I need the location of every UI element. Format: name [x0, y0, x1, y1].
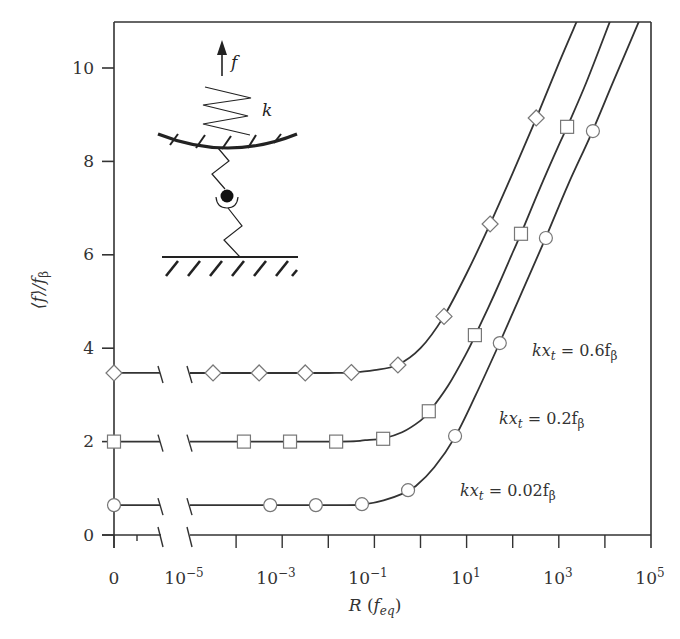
diamond-marker — [528, 110, 544, 126]
molecule-spring-upper-icon — [212, 148, 229, 189]
hatch-marks-ground — [166, 261, 297, 276]
circle-marker — [108, 499, 121, 512]
diamond-marker — [482, 216, 498, 232]
square-marker — [284, 435, 297, 448]
spring-constant-label: k — [262, 100, 272, 120]
y-tick-label: 8 — [83, 151, 94, 171]
square-marker — [561, 120, 574, 133]
y-tick-label: 6 — [83, 244, 94, 264]
y-tick-label: 2 — [83, 431, 94, 451]
square-marker — [468, 329, 481, 342]
chart: 0 10−5 10−3 10−1 101 103 105 0 2 4 6 8 1… — [0, 0, 680, 639]
bead-icon — [221, 190, 234, 203]
circle-marker — [586, 125, 599, 138]
square-marker — [237, 435, 250, 448]
series-label-0.02: kxt = 0.02fβ — [460, 481, 556, 503]
circle-marker — [539, 231, 552, 244]
x-tick-label: 10−5 — [164, 566, 203, 588]
inset-schematic: f k — [158, 40, 298, 276]
y-tick-label: 0 — [83, 525, 94, 545]
series-label-0.2: kxt = 0.2fβ — [499, 409, 585, 431]
circle-marker — [264, 499, 277, 512]
y-tick-labels: 0 2 4 6 8 10 — [72, 58, 94, 545]
series-label-0.6: kxt = 0.6fβ — [532, 341, 618, 363]
force-label: f — [229, 52, 240, 72]
fit-curve — [190, 21, 577, 373]
x-axis-label: R (feq) — [348, 595, 402, 618]
square-marker — [330, 435, 343, 448]
diamond-marker — [436, 308, 452, 324]
square-marker — [108, 435, 121, 448]
plot-frame — [102, 22, 651, 548]
x-axis-ticks — [114, 535, 605, 548]
spring-icon — [203, 87, 251, 135]
circle-marker — [449, 429, 462, 442]
x-tick-label: 10−1 — [348, 566, 387, 588]
force-arrow-icon — [217, 40, 227, 76]
data-markers — [106, 110, 599, 512]
x-tick-label: 10−3 — [256, 566, 295, 588]
x-tick-label: 103 — [543, 566, 572, 588]
diamond-marker — [297, 365, 313, 381]
y-axis-ticks — [102, 68, 114, 535]
diamond-marker — [251, 365, 267, 381]
y-tick-label: 4 — [83, 338, 94, 358]
square-marker — [514, 227, 527, 240]
x-tick-label: 101 — [451, 566, 480, 588]
y-axis-label: ⟨f⟩/fβ — [28, 271, 51, 310]
diamond-marker — [390, 357, 406, 373]
molecule-spring-lower-icon — [224, 208, 242, 257]
circle-marker — [309, 499, 322, 512]
y-tick-label: 10 — [72, 58, 94, 78]
diamond-marker — [106, 365, 122, 381]
x-tick-label: 0 — [109, 568, 120, 588]
fit-curve — [190, 21, 639, 505]
x-tick-label: 105 — [635, 566, 664, 588]
square-marker — [422, 405, 435, 418]
x-tick-labels: 0 10−5 10−3 10−1 101 103 105 — [109, 566, 665, 588]
square-marker — [377, 432, 390, 445]
circle-marker — [493, 337, 506, 350]
circle-marker — [355, 498, 368, 511]
diamond-marker — [205, 365, 221, 381]
circle-marker — [402, 484, 415, 497]
diamond-marker — [343, 364, 359, 380]
